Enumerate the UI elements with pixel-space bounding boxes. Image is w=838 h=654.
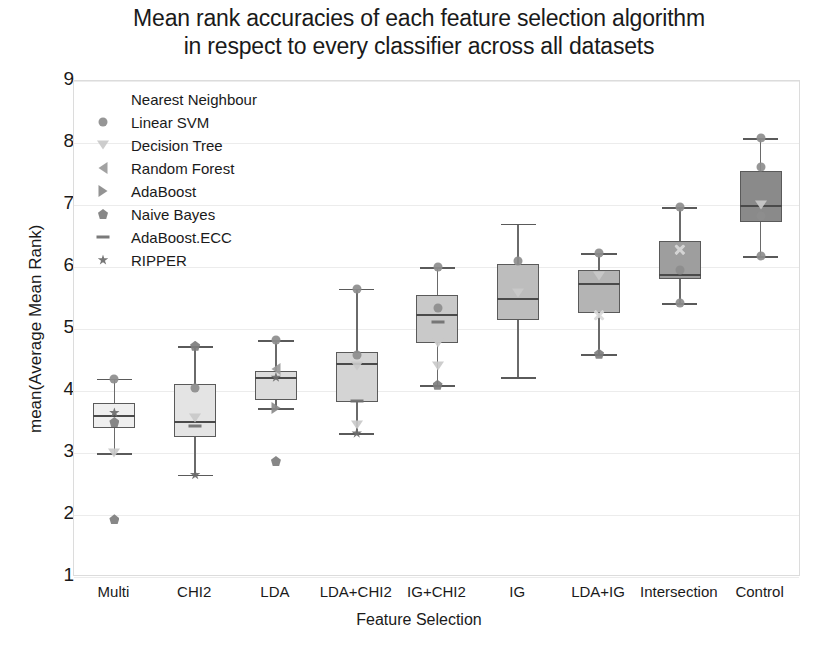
data-point-marker	[271, 402, 280, 414]
data-point-marker	[675, 202, 684, 211]
data-point-marker	[756, 134, 765, 143]
legend-item: Linear SVM	[95, 111, 310, 134]
legend-label: AdaBoost	[131, 180, 196, 203]
data-point-marker	[431, 320, 444, 323]
legend-marker-icon	[99, 185, 108, 197]
chart-title: Mean rank accuracies of each feature sel…	[0, 4, 838, 60]
legend-item: RIPPER	[95, 249, 310, 272]
legend-label: Decision Tree	[131, 134, 223, 157]
data-point-marker	[433, 263, 442, 272]
data-point-marker	[432, 362, 444, 371]
x-tick-label-lda-chi2: LDA+CHI2	[320, 583, 392, 600]
legend-label: Linear SVM	[131, 111, 209, 134]
data-point-marker	[189, 424, 202, 427]
x-tick-label-lda-ig: LDA+IG	[571, 583, 625, 600]
data-point-marker	[352, 351, 361, 360]
y-tick-label: 2	[30, 502, 74, 524]
gridline	[74, 515, 799, 516]
data-point-marker	[594, 349, 604, 359]
y-tick-label: 1	[30, 564, 74, 586]
x-tick-label-ig-chi2: IG+CHI2	[407, 583, 466, 600]
data-point-marker	[191, 383, 200, 392]
chart-title-line-1: Mean rank accuracies of each feature sel…	[133, 5, 705, 31]
data-point-marker	[595, 249, 604, 258]
x-tick-label-chi2: CHI2	[177, 583, 211, 600]
data-point-marker	[271, 456, 281, 466]
legend-label: Nearest Neighbour	[131, 88, 257, 111]
legend-item: Random Forest	[95, 157, 310, 180]
data-point-marker	[352, 284, 361, 293]
y-tick-label: 7	[30, 192, 74, 214]
y-axis-title: mean(Average Mean Rank)	[26, 224, 46, 433]
data-point-marker	[189, 414, 201, 423]
x-tick-label-multi: Multi	[98, 583, 130, 600]
data-point-marker	[756, 252, 765, 261]
gridline	[74, 453, 799, 454]
legend-label: Random Forest	[131, 157, 234, 180]
data-point-marker	[271, 336, 280, 345]
data-point-marker	[512, 289, 524, 298]
data-point-marker	[108, 449, 120, 458]
y-tick-label: 8	[30, 130, 74, 152]
median-line	[416, 314, 458, 316]
data-point-marker	[593, 272, 605, 281]
data-point-marker	[675, 298, 684, 307]
x-tick-label-lda: LDA	[260, 583, 289, 600]
gridline	[74, 577, 799, 578]
x-axis-title: Feature Selection	[0, 611, 838, 629]
data-point-marker	[433, 380, 443, 390]
gridline	[74, 81, 799, 82]
y-tick-label: 3	[30, 440, 74, 462]
legend-marker-icon	[97, 236, 110, 239]
data-point-marker	[350, 399, 363, 402]
median-line	[497, 298, 539, 300]
data-point-marker	[756, 212, 765, 221]
chart-title-line-2: in respect to every classifier across al…	[0, 32, 838, 60]
legend-marker-icon	[98, 255, 109, 266]
data-point-marker	[675, 266, 684, 275]
legend-item: AdaBoost	[95, 180, 310, 203]
legend-item: Decision Tree	[95, 134, 310, 157]
legend-marker-icon	[99, 162, 108, 174]
data-point-marker	[514, 256, 523, 265]
legend-label: RIPPER	[131, 249, 187, 272]
legend-item: AdaBoost.ECC	[95, 226, 310, 249]
data-point-marker	[110, 374, 119, 383]
whisker-cap-lower	[501, 377, 536, 379]
legend-item: Nearest Neighbour	[95, 88, 310, 111]
x-tick-label-intersection: Intersection	[640, 583, 718, 600]
legend-marker-icon	[97, 141, 109, 150]
data-point-marker	[190, 341, 200, 351]
chart-figure: Mean rank accuracies of each feature sel…	[0, 0, 838, 654]
median-line	[578, 283, 620, 285]
legend-label: Naive Bayes	[131, 203, 215, 226]
x-tick-label-ig: IG	[509, 583, 525, 600]
median-line	[659, 274, 701, 276]
data-point-marker	[351, 362, 363, 371]
legend-item: Naive Bayes	[95, 203, 310, 226]
legend-marker-icon	[98, 209, 108, 219]
x-tick-label-control: Control	[735, 583, 783, 600]
data-point-marker	[433, 303, 442, 312]
data-point-marker	[755, 201, 767, 210]
legend-label: AdaBoost.ECC	[131, 226, 232, 249]
data-point-marker	[756, 162, 765, 171]
data-point-marker	[432, 338, 444, 347]
legend-marker-icon	[99, 118, 108, 127]
whisker-cap-upper	[501, 224, 536, 226]
y-tick-label: 9	[30, 68, 74, 90]
legend: Nearest NeighbourLinear SVMDecision Tree…	[95, 88, 310, 272]
